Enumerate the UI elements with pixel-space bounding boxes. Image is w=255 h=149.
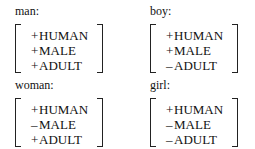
right-bracket bbox=[232, 98, 238, 147]
feature-sign: + bbox=[166, 44, 174, 57]
feature-name: MALE bbox=[39, 43, 76, 58]
feature-sign: – bbox=[166, 133, 174, 146]
feature-name: HUMAN bbox=[39, 102, 88, 117]
bracket-matrix: +HUMAN –MALE –ADULT bbox=[150, 98, 238, 147]
feature-sign: + bbox=[31, 29, 39, 42]
feature-name: HUMAN bbox=[174, 28, 223, 43]
feature-row: +HUMAN bbox=[31, 103, 88, 116]
right-bracket bbox=[232, 24, 238, 73]
left-bracket bbox=[150, 24, 156, 73]
word-label: boy: bbox=[150, 5, 171, 17]
bracket-matrix: +HUMAN +MALE –ADULT bbox=[150, 24, 238, 73]
bracket-matrix: +HUMAN –MALE +ADULT bbox=[15, 98, 103, 147]
word-label: man: bbox=[15, 5, 39, 17]
feature-name: ADULT bbox=[174, 132, 217, 147]
feature-name: ADULT bbox=[174, 58, 217, 73]
feature-matrix-man: man: +HUMAN +MALE +ADULT bbox=[15, 5, 115, 75]
feature-name: MALE bbox=[39, 117, 76, 132]
feature-row: –MALE bbox=[31, 118, 76, 131]
bracket-matrix: +HUMAN +MALE +ADULT bbox=[15, 24, 103, 73]
feature-row: +MALE bbox=[166, 44, 211, 57]
left-bracket bbox=[150, 98, 156, 147]
left-bracket bbox=[15, 24, 21, 73]
feature-row: –MALE bbox=[166, 118, 211, 131]
feature-name: MALE bbox=[174, 117, 211, 132]
feature-name: HUMAN bbox=[39, 28, 88, 43]
feature-row: +ADULT bbox=[31, 133, 82, 146]
word-label: girl: bbox=[150, 79, 170, 91]
feature-sign: + bbox=[166, 103, 174, 116]
word-label: woman: bbox=[15, 79, 54, 91]
feature-sign: + bbox=[31, 59, 39, 72]
feature-row: +ADULT bbox=[31, 59, 82, 72]
feature-matrix-girl: girl: +HUMAN –MALE –ADULT bbox=[150, 79, 250, 149]
feature-matrix-boy: boy: +HUMAN +MALE –ADULT bbox=[150, 5, 250, 75]
feature-matrix-woman: woman: +HUMAN –MALE +ADULT bbox=[15, 79, 115, 149]
feature-name: HUMAN bbox=[174, 102, 223, 117]
feature-row: +HUMAN bbox=[166, 103, 223, 116]
feature-row: +HUMAN bbox=[31, 29, 88, 42]
feature-sign: – bbox=[166, 59, 174, 72]
feature-name: MALE bbox=[174, 43, 211, 58]
feature-name: ADULT bbox=[39, 58, 82, 73]
feature-sign: + bbox=[166, 29, 174, 42]
feature-sign: – bbox=[31, 118, 39, 131]
feature-row: +MALE bbox=[31, 44, 76, 57]
left-bracket bbox=[15, 98, 21, 147]
right-bracket bbox=[97, 24, 103, 73]
feature-sign: + bbox=[31, 44, 39, 57]
feature-sign: – bbox=[166, 118, 174, 131]
feature-row: –ADULT bbox=[166, 133, 217, 146]
feature-row: –ADULT bbox=[166, 59, 217, 72]
feature-sign: + bbox=[31, 103, 39, 116]
feature-sign: + bbox=[31, 133, 39, 146]
right-bracket bbox=[97, 98, 103, 147]
feature-row: +HUMAN bbox=[166, 29, 223, 42]
feature-name: ADULT bbox=[39, 132, 82, 147]
